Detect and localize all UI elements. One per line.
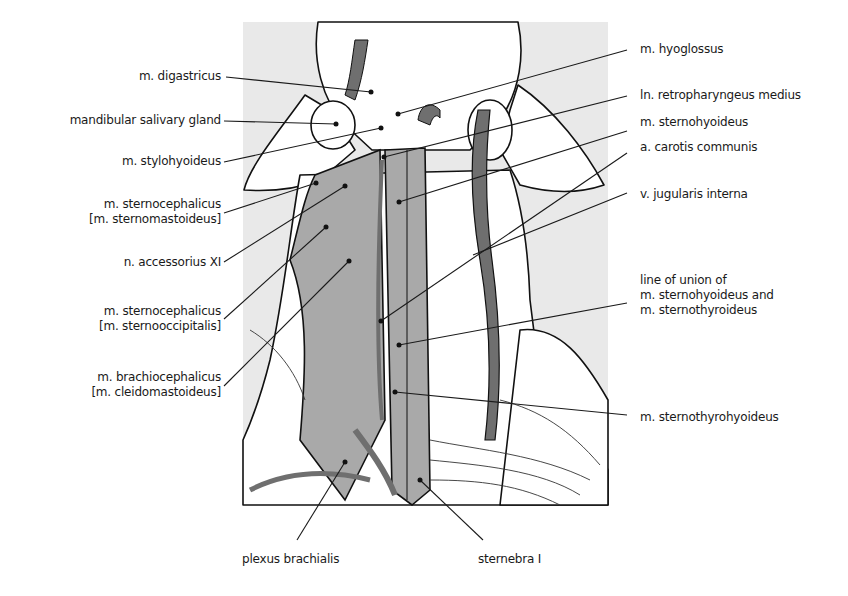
label-stylohyoideus: m. stylohyoideus bbox=[122, 154, 221, 169]
label-retropharyngeus: ln. retropharyngeus medius bbox=[640, 88, 801, 103]
label-digastricus: m. digastricus bbox=[139, 69, 221, 84]
label-hyoglossus: m. hyoglossus bbox=[640, 42, 723, 57]
label-cleidomastoideus: m. brachiocephalicus[m. cleidomastoideus… bbox=[91, 370, 221, 400]
label-mandibular-salivary-gland: mandibular salivary gland bbox=[70, 113, 221, 128]
label-carotis-communis: a. carotis communis bbox=[640, 140, 757, 155]
label-sternebra: sternebra I bbox=[478, 552, 541, 567]
label-sternooccipitalis: m. sternocephalicus[m. sternooccipitalis… bbox=[99, 304, 221, 334]
label-sternothyrohyoideus: m. sternothyrohyoideus bbox=[640, 410, 779, 425]
label-sternomastoideus: m. sternocephalicus[m. sternomastoideus] bbox=[89, 197, 221, 227]
label-sternohyoideus: m. sternohyoideus bbox=[640, 115, 748, 130]
label-accessorius: n. accessorius XI bbox=[124, 255, 221, 270]
label-jugularis-interna: v. jugularis interna bbox=[640, 187, 748, 202]
label-line-of-union: line of union ofm. sternohyoideus andm. … bbox=[640, 273, 774, 318]
label-plexus-brachialis: plexus brachialis bbox=[242, 552, 339, 567]
anatomical-figure: m. digastricus mandibular salivary gland… bbox=[0, 0, 848, 596]
